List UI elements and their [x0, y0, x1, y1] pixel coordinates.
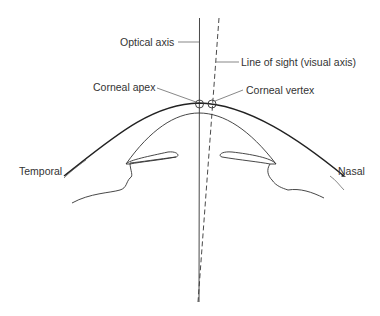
visual-axis-line — [198, 18, 219, 302]
outer-cornea-curve — [64, 103, 344, 176]
nasal-ciliary-outline — [268, 164, 324, 198]
eye-axes-diagram: Optical axis Line of sight (visual axis)… — [0, 0, 380, 316]
temporal-ciliary-outline — [72, 157, 176, 203]
corneal-vertex-leader — [215, 90, 243, 101]
corneal-vertex-label: Corneal vertex — [246, 84, 315, 96]
nasal-label: Nasal — [338, 165, 365, 177]
temporal-sclera-lower — [64, 160, 86, 178]
nasal-sclera-lower — [330, 176, 344, 190]
temporal-label: Temporal — [19, 165, 62, 177]
optical-axis-label: Optical axis — [120, 36, 174, 48]
line-of-sight-label: Line of sight (visual axis) — [241, 56, 356, 68]
corneal-apex-label: Corneal apex — [93, 81, 156, 93]
corneal-apex-leader — [157, 88, 196, 102]
optical-axis-line — [199, 18, 200, 302]
